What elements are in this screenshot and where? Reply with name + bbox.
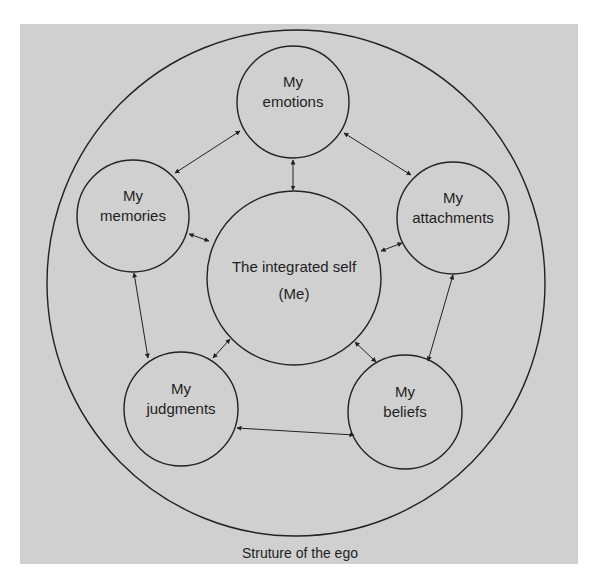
beliefs-label-line2: beliefs <box>383 403 426 420</box>
memories-label-line2: memories <box>100 207 166 224</box>
node-integrated-self: The integrated self (Me) <box>207 191 381 365</box>
node-emotions: Myemotions <box>237 46 349 158</box>
diagram-caption: Struture of the ego <box>242 545 358 561</box>
arrow-judgments-beliefs <box>237 428 354 435</box>
attachments-label-line1: My <box>443 189 463 206</box>
arrow-attachments-beliefs <box>428 275 453 361</box>
node-memories: Mymemories <box>77 160 189 272</box>
judgments-label-line1: My <box>171 380 191 397</box>
beliefs-label-line1: My <box>395 383 415 400</box>
integrated-self-sublabel: (Me) <box>279 285 310 302</box>
emotions-label-line2: emotions <box>263 93 324 110</box>
node-attachments: Myattachments <box>397 162 509 274</box>
arrow-self-beliefs <box>355 342 376 362</box>
attachments-label-line2: attachments <box>412 209 494 226</box>
arrow-self-judgments <box>213 339 230 358</box>
arrow-memories-judgments <box>134 273 148 358</box>
emotions-label-line1: My <box>283 73 303 90</box>
integrated-self-circle <box>207 191 381 365</box>
node-judgments: Myjudgments <box>124 352 238 466</box>
node-beliefs: Mybeliefs <box>348 355 462 469</box>
ego-structure-diagram: MyemotionsMymemoriesMyattachmentsMyjudgm… <box>0 0 601 585</box>
arrow-attachments-self <box>381 243 402 251</box>
arrow-memories-emotions <box>175 131 240 173</box>
judgments-label-line2: judgments <box>145 400 215 417</box>
arrow-emotions-attachments <box>344 133 411 175</box>
memories-label-line1: My <box>123 187 143 204</box>
integrated-self-label: The integrated self <box>232 258 357 275</box>
arrow-memories-self <box>189 234 209 241</box>
